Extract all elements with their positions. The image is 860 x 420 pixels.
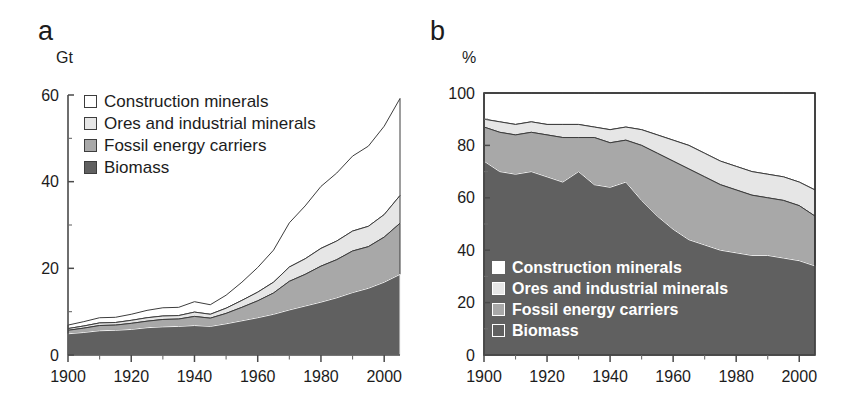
legend-swatch-fossil-energy-carriers-b [492, 303, 505, 316]
legend-swatch-fossil-energy-carriers [84, 139, 97, 152]
svg-text:0: 0 [50, 347, 59, 364]
svg-text:20: 20 [457, 294, 475, 311]
svg-text:2000: 2000 [366, 368, 402, 385]
legend-item-biomass-b: Biomass [492, 320, 728, 341]
legend-label-fossil-energy-carriers-b: Fossil energy carriers [512, 302, 678, 318]
svg-text:1960: 1960 [240, 368, 276, 385]
figure-container: a Gt 0204060190019201940196019802000 Con… [0, 0, 860, 420]
panel-a-plot: 0204060190019201940196019802000 [0, 0, 430, 420]
svg-text:0: 0 [466, 347, 475, 364]
svg-text:1940: 1940 [592, 368, 628, 385]
legend-item-fossil-energy-carriers-b: Fossil energy carriers [492, 299, 728, 320]
svg-text:80: 80 [457, 137, 475, 154]
panel-a-legend: Construction minerals Ores and industria… [84, 90, 316, 178]
legend-item-ores-industrial-minerals-b: Ores and industrial minerals [492, 278, 728, 299]
svg-text:1900: 1900 [466, 368, 502, 385]
legend-swatch-ores-industrial-minerals-b [492, 282, 505, 295]
legend-swatch-construction-minerals [84, 95, 97, 108]
panel-b: b % 020406080100190019201940196019802000… [430, 0, 860, 420]
legend-swatch-biomass [84, 161, 97, 174]
svg-text:20: 20 [41, 260, 59, 277]
panel-b-legend: Construction minerals Ores and industria… [492, 257, 728, 341]
svg-text:1980: 1980 [303, 368, 339, 385]
svg-text:60: 60 [41, 87, 59, 104]
svg-text:1980: 1980 [718, 368, 754, 385]
svg-text:1940: 1940 [177, 368, 213, 385]
legend-label-fossil-energy-carriers: Fossil energy carriers [104, 137, 267, 154]
legend-item-construction-minerals-b: Construction minerals [492, 257, 728, 278]
panel-a-svg: 0204060190019201940196019802000 [0, 0, 430, 420]
svg-text:1920: 1920 [113, 368, 149, 385]
svg-text:1920: 1920 [529, 368, 565, 385]
svg-text:2000: 2000 [781, 368, 817, 385]
legend-item-ores-industrial-minerals: Ores and industrial minerals [84, 112, 316, 134]
legend-label-biomass-b: Biomass [512, 323, 579, 339]
legend-item-fossil-energy-carriers: Fossil energy carriers [84, 134, 316, 156]
panel-a: a Gt 0204060190019201940196019802000 Con… [0, 0, 430, 420]
svg-text:1900: 1900 [50, 368, 86, 385]
legend-swatch-biomass-b [492, 324, 505, 337]
panel-b-svg: 020406080100190019201940196019802000 [430, 0, 860, 420]
legend-label-ores-industrial-minerals: Ores and industrial minerals [104, 115, 316, 132]
svg-text:60: 60 [457, 189, 475, 206]
svg-text:100: 100 [448, 85, 475, 102]
legend-label-construction-minerals: Construction minerals [104, 93, 268, 110]
legend-swatch-ores-industrial-minerals [84, 117, 97, 130]
legend-label-ores-industrial-minerals-b: Ores and industrial minerals [512, 281, 728, 297]
legend-label-biomass: Biomass [104, 159, 169, 176]
legend-label-construction-minerals-b: Construction minerals [512, 260, 682, 276]
svg-text:40: 40 [457, 242, 475, 259]
svg-text:1960: 1960 [655, 368, 691, 385]
panel-b-plot: 020406080100190019201940196019802000 [430, 0, 860, 420]
legend-item-construction-minerals: Construction minerals [84, 90, 316, 112]
legend-item-biomass: Biomass [84, 156, 316, 178]
svg-text:40: 40 [41, 173, 59, 190]
legend-swatch-construction-minerals-b [492, 261, 505, 274]
